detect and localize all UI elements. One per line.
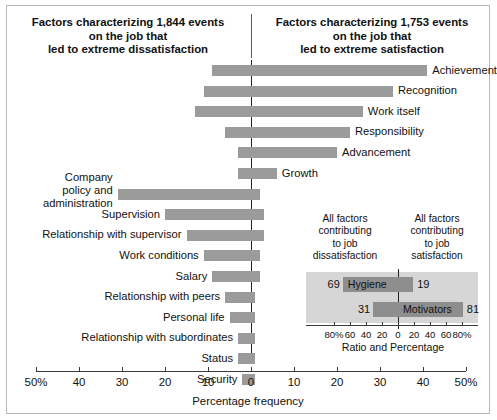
x-axis: 50%4030201001020304050% bbox=[0, 371, 496, 373]
bar-row-label: Personal life bbox=[163, 310, 225, 325]
header-divider bbox=[251, 14, 252, 58]
inset-x-axis-tick bbox=[334, 322, 335, 325]
bar-dissatisfaction bbox=[204, 250, 251, 261]
x-axis-tick-label: 10 bbox=[274, 376, 314, 388]
bar-satisfaction bbox=[251, 106, 363, 117]
x-axis-tick bbox=[36, 367, 37, 371]
x-axis-tick-label: 20 bbox=[317, 376, 357, 388]
bar-row-label: Growth bbox=[282, 166, 318, 181]
inset-x-axis-tick bbox=[398, 322, 399, 325]
x-axis-tick-label: 40 bbox=[59, 376, 99, 388]
inset-bar-row: 6919Hygiene bbox=[306, 273, 478, 298]
bar-dissatisfaction bbox=[165, 209, 251, 220]
inset-value-left: 69 bbox=[323, 277, 340, 292]
bar-row: Companypolicy andadministration bbox=[0, 185, 496, 206]
bar-row: Advancement bbox=[0, 143, 496, 164]
bar-row-label: Responsibility bbox=[355, 124, 424, 139]
inset-caption-dissatisfaction: All factorscontributingto jobdissatisfac… bbox=[302, 213, 388, 263]
bar-dissatisfaction bbox=[187, 230, 252, 241]
inset-x-axis: 80%604020020406080% bbox=[306, 325, 478, 327]
bar-satisfaction bbox=[251, 168, 277, 179]
x-axis-tick bbox=[466, 367, 467, 371]
x-axis-tick bbox=[79, 367, 80, 371]
bar-row: Achievement bbox=[0, 61, 496, 82]
x-axis-title: Percentage frequency bbox=[0, 395, 496, 407]
bar-satisfaction bbox=[251, 127, 350, 138]
x-axis-line bbox=[36, 371, 466, 372]
header-satisfaction: Factors characterizing 1,753 eventson th… bbox=[258, 16, 486, 57]
inset-ratio-chart: All factorscontributingto jobdissatisfac… bbox=[300, 213, 486, 358]
inset-value-left: 31 bbox=[353, 302, 370, 317]
inset-x-axis-line bbox=[306, 325, 478, 326]
bar-satisfaction bbox=[251, 189, 260, 200]
inset-bar-label: Hygiene bbox=[348, 277, 387, 292]
inset-plot-box: 6919Hygiene3181Motivators bbox=[306, 272, 478, 323]
bar-dissatisfaction bbox=[212, 65, 251, 76]
inset-value-right: 81 bbox=[467, 302, 479, 317]
x-axis-tick-label: 50% bbox=[446, 376, 486, 388]
bar-satisfaction bbox=[251, 86, 393, 97]
bar-row-label: Supervision bbox=[102, 207, 160, 222]
inset-x-axis-tick bbox=[430, 322, 431, 325]
x-axis-tick-label: 30 bbox=[102, 376, 142, 388]
inset-x-axis-tick bbox=[382, 322, 383, 325]
bar-dissatisfaction bbox=[238, 147, 251, 158]
bar-satisfaction bbox=[251, 333, 255, 344]
inset-bar-label: Motivators bbox=[403, 302, 452, 317]
bar-dissatisfaction bbox=[204, 86, 251, 97]
inset-bar-row: 3181Motivators bbox=[306, 298, 478, 323]
x-axis-tick-label: 40 bbox=[403, 376, 443, 388]
bar-dissatisfaction bbox=[238, 353, 251, 364]
header-dissatisfaction: Factors characterizing 1,844 eventson th… bbox=[14, 16, 242, 57]
bar-row: Work itself bbox=[0, 102, 496, 123]
inset-caption-satisfaction: All factorscontributingto jobsatisfactio… bbox=[394, 213, 480, 263]
bar-dissatisfaction bbox=[225, 127, 251, 138]
bar-row-label: Work conditions bbox=[119, 248, 198, 263]
x-axis-tick-label: 10 bbox=[188, 376, 228, 388]
bar-dissatisfaction bbox=[195, 106, 251, 117]
bar-row-label: Work itself bbox=[368, 104, 420, 119]
x-axis-tick-label: 50% bbox=[16, 376, 56, 388]
inset-x-axis-tick bbox=[366, 322, 367, 325]
bar-satisfaction bbox=[251, 271, 260, 282]
bar-row-label: Achievement bbox=[432, 63, 497, 78]
x-axis-tick-label: 30 bbox=[360, 376, 400, 388]
bar-row-label: Relationship with peers bbox=[105, 289, 221, 304]
x-axis-tick bbox=[251, 367, 252, 371]
bar-dissatisfaction bbox=[238, 333, 251, 344]
bar-dissatisfaction bbox=[225, 292, 251, 303]
inset-x-axis-tick bbox=[446, 322, 447, 325]
inset-x-axis-tick-label: 80% bbox=[447, 329, 477, 340]
bar-row-label: Advancement bbox=[342, 145, 410, 160]
inset-x-axis-tick bbox=[462, 322, 463, 325]
bar-satisfaction bbox=[251, 292, 255, 303]
inset-value-right: 19 bbox=[417, 277, 429, 292]
bar-dissatisfaction bbox=[230, 312, 252, 323]
x-axis-tick-label: 20 bbox=[145, 376, 185, 388]
bar-satisfaction bbox=[251, 312, 255, 323]
bar-row: Responsibility bbox=[0, 123, 496, 144]
bar-dissatisfaction bbox=[238, 168, 251, 179]
x-axis-tick bbox=[337, 367, 338, 371]
inset-x-axis-tick bbox=[350, 322, 351, 325]
bar-row-label: Status bbox=[201, 351, 233, 366]
bar-satisfaction bbox=[251, 353, 255, 364]
bar-row-label: Relationship with subordinates bbox=[81, 330, 233, 345]
inset-x-axis-tick bbox=[414, 322, 415, 325]
bar-satisfaction bbox=[251, 250, 260, 261]
bar-row-label: Relationship with supervisor bbox=[42, 227, 181, 242]
bar-dissatisfaction bbox=[212, 271, 251, 282]
bar-satisfaction bbox=[251, 65, 427, 76]
inset-x-axis-title: Ratio and Percentage bbox=[300, 341, 486, 353]
bar-satisfaction bbox=[251, 147, 337, 158]
x-axis-tick-label: 0 bbox=[231, 376, 271, 388]
x-axis-tick bbox=[165, 367, 166, 371]
x-axis-tick bbox=[122, 367, 123, 371]
bar-satisfaction bbox=[251, 230, 264, 241]
x-axis-tick bbox=[208, 367, 209, 371]
bar-dissatisfaction bbox=[118, 189, 251, 200]
bar-row-label: Recognition bbox=[398, 83, 457, 98]
x-axis-tick bbox=[294, 367, 295, 371]
bar-row: Recognition bbox=[0, 82, 496, 103]
